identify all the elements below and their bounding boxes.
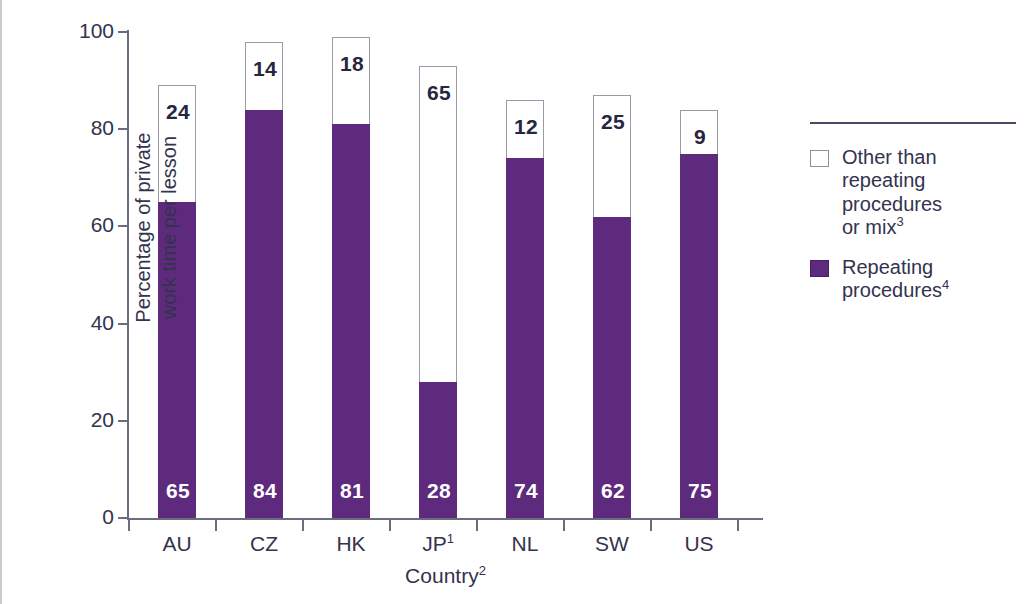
y-axis-tick — [118, 31, 129, 33]
legend-label: Other than repeating procedures or mix3 — [842, 146, 942, 240]
x-axis-tick — [128, 519, 130, 531]
x-axis-label-us: US — [654, 532, 744, 556]
bar-value-label-other: 14 — [246, 57, 284, 81]
bar-value-label-other: 9 — [681, 125, 719, 149]
bar-segment-repeating[interactable]: 74 — [506, 158, 544, 518]
bar-value-label-repeating: 84 — [246, 479, 284, 503]
bar-value-label-repeating: 81 — [333, 479, 371, 503]
bar-segment-other[interactable]: 18 — [332, 37, 370, 124]
bar-value-label-repeating: 74 — [507, 479, 545, 503]
y-axis-tick — [118, 420, 129, 422]
y-axis-tick-label: 20 — [54, 408, 114, 432]
bar-segment-other[interactable]: 25 — [593, 95, 631, 217]
legend-label: Repeating procedures4 — [842, 256, 949, 303]
bar-segment-repeating[interactable]: 84 — [245, 110, 283, 518]
y-axis-tick — [118, 128, 129, 130]
bar-segment-other[interactable]: 65 — [419, 66, 457, 382]
legend-item-repeating[interactable]: Repeating procedures4 — [810, 256, 1022, 303]
y-axis-tick-label: 60 — [54, 213, 114, 237]
x-axis-title: Country2 — [129, 564, 762, 588]
x-axis-label-superscript: 1 — [447, 531, 454, 546]
x-axis-tick — [389, 519, 391, 531]
bar-segment-repeating[interactable]: 62 — [593, 217, 631, 518]
x-axis-label-sw: SW — [567, 532, 657, 556]
legend-label-superscript: 4 — [942, 277, 949, 292]
x-axis-title-superscript: 2 — [479, 563, 486, 578]
y-axis-tick-label: 80 — [54, 116, 114, 140]
legend-item-other[interactable]: Other than repeating procedures or mix3 — [810, 146, 1022, 240]
y-axis-title: Percentage of private work time per less… — [131, 28, 182, 428]
legend-label-superscript: 3 — [896, 215, 903, 230]
x-axis-label-au: AU — [132, 532, 222, 556]
x-axis-tick — [302, 519, 304, 531]
bar-group-us[interactable]: 975 — [680, 110, 718, 518]
bar-value-label-other: 25 — [594, 110, 632, 134]
x-axis-label-text: NL — [512, 532, 539, 555]
bar-segment-repeating[interactable]: 28 — [419, 382, 457, 518]
x-axis-label-text: HK — [336, 532, 365, 555]
x-axis-label-text: SW — [595, 532, 629, 555]
legend-swatch-repeating-icon — [810, 260, 829, 277]
plot-area: 246514841881652812742562975 Percentage o… — [129, 32, 762, 518]
y-axis-tick-label: 100 — [54, 19, 114, 43]
x-axis-label-text: CZ — [250, 532, 278, 555]
x-axis-tick — [215, 519, 217, 531]
bar-value-label-repeating: 75 — [681, 479, 719, 503]
x-axis-label-text: US — [684, 532, 713, 555]
x-axis-tick — [476, 519, 478, 531]
x-axis-title-text: Country — [405, 564, 479, 587]
x-axis-label-hk: HK — [306, 532, 396, 556]
y-axis-tick — [118, 225, 129, 227]
x-axis-label-text: AU — [162, 532, 191, 555]
legend-swatch-other-icon — [810, 150, 829, 167]
bar-segment-other[interactable]: 9 — [680, 110, 718, 154]
bar-value-label-other: 12 — [507, 115, 545, 139]
bar-group-hk[interactable]: 1881 — [332, 37, 370, 518]
bar-value-label-other: 65 — [420, 81, 458, 105]
bar-group-nl[interactable]: 1274 — [506, 100, 544, 518]
bar-value-label-repeating: 65 — [159, 479, 197, 503]
bar-segment-other[interactable]: 14 — [245, 42, 283, 110]
x-axis-label-cz: CZ — [219, 532, 309, 556]
legend-items: Other than repeating procedures or mix3R… — [810, 146, 1022, 302]
x-axis-line — [127, 518, 763, 520]
bar-value-label-other: 18 — [333, 52, 371, 76]
chart-legend: Other than repeating procedures or mix3R… — [810, 122, 1022, 318]
bar-segment-repeating[interactable]: 75 — [680, 154, 718, 519]
x-axis-label-nl: NL — [480, 532, 570, 556]
y-axis-tick — [118, 323, 129, 325]
bar-segment-repeating[interactable]: 81 — [332, 124, 370, 518]
bar-value-label-repeating: 28 — [420, 479, 458, 503]
bar-value-label-repeating: 62 — [594, 479, 632, 503]
chart-figure: 020406080100 AUCZHKJP1NLSWUS 24651484188… — [0, 0, 1033, 604]
y-axis-tick-label: 0 — [54, 505, 114, 529]
legend-divider — [810, 122, 1016, 124]
x-axis-tick — [563, 519, 565, 531]
x-axis-label-jp: JP1 — [393, 532, 483, 556]
x-axis-label-text: JP — [422, 532, 447, 555]
bar-group-cz[interactable]: 1484 — [245, 42, 283, 518]
x-axis-tick — [737, 519, 739, 531]
y-axis-tick-label: 40 — [54, 311, 114, 335]
bar-segment-other[interactable]: 12 — [506, 100, 544, 158]
bar-group-jp[interactable]: 6528 — [419, 66, 457, 518]
bar-group-sw[interactable]: 2562 — [593, 95, 631, 518]
x-axis-tick — [650, 519, 652, 531]
